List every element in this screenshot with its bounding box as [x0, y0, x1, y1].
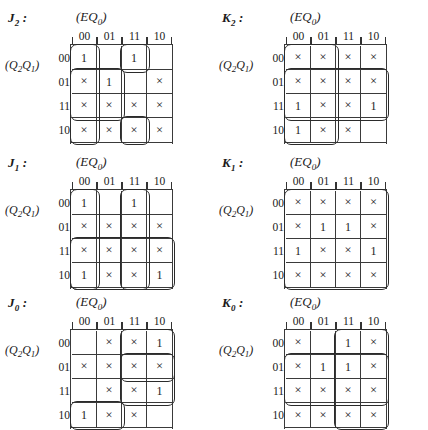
kmap-cell: 1: [147, 379, 172, 403]
kmap-cell: ×: [311, 403, 336, 427]
kmap-grid-j1: 11××××××××1××1: [72, 191, 172, 287]
kmap-cell: ×: [361, 379, 386, 403]
row-value: 00: [50, 191, 70, 215]
kmap-title-j0: J0 :: [8, 295, 27, 313]
kmap-cell: ×: [361, 331, 386, 355]
column-header-label-k2: (EQ0): [290, 9, 321, 27]
column-value: 01: [311, 29, 336, 44]
kmap-cell: ×: [336, 191, 361, 215]
kmap-cell: ×: [336, 403, 361, 427]
kmap-cell: ×: [122, 403, 147, 427]
grid-bottom-border: [285, 142, 386, 143]
column-value: 01: [97, 29, 122, 44]
row-value: 10: [50, 118, 70, 142]
kmap-cell: ×: [311, 239, 336, 263]
kmap-cell: ×: [122, 118, 147, 142]
kmap-cell: ×: [361, 355, 386, 379]
kmap-title-k0: K0 :: [222, 295, 244, 313]
column-value: 01: [97, 174, 122, 189]
kmap-cell: [147, 403, 172, 427]
kmap-cell: ×: [97, 355, 122, 379]
row-value: 10: [50, 263, 70, 287]
row-value: 00: [50, 46, 70, 70]
kmap-cell: ×: [286, 331, 311, 355]
kmap-cell: ×: [361, 215, 386, 239]
row-value: 10: [264, 263, 284, 287]
kmap-j0: J0 :(EQ0)(Q2Q1)0001111000011110××1××××××…: [0, 285, 200, 425]
kmap-cell: 1: [336, 331, 361, 355]
row-values-k0: 00011110: [264, 331, 284, 427]
kmap-cell: 1: [286, 239, 311, 263]
row-header-label-j0: (Q2Q1): [5, 343, 39, 359]
kmap-cell: ×: [286, 263, 311, 287]
column-value: 00: [286, 174, 311, 189]
row-value: 11: [264, 94, 284, 118]
column-value: 10: [147, 314, 172, 329]
column-value: 10: [361, 314, 386, 329]
kmap-j2: J2 :(EQ0)(Q2Q1)000111100001111011×1×××××…: [0, 0, 200, 140]
kmap-cell: ×: [361, 70, 386, 94]
kmap-cell: ×: [361, 191, 386, 215]
kmap-cell: [361, 118, 386, 142]
kmap-cell: ×: [286, 191, 311, 215]
kmap-cell: ×: [122, 331, 147, 355]
row-header-label-j2: (Q2Q1): [5, 58, 39, 74]
kmap-cell: [97, 46, 122, 70]
kmap-k1: K1 :(EQ0)(Q2Q1)0001111000011110×××××11×1…: [214, 145, 414, 285]
kmap-cell: [97, 191, 122, 215]
column-value: 00: [286, 29, 311, 44]
kmap-cell: 1: [361, 239, 386, 263]
grid-bottom-border: [285, 427, 386, 428]
column-value: 01: [311, 174, 336, 189]
kmap-cell: ×: [361, 46, 386, 70]
grid-right-border: [172, 44, 173, 144]
kmap-cell: ×: [147, 355, 172, 379]
kmap-cell: ×: [147, 239, 172, 263]
kmap-cell: ×: [97, 263, 122, 287]
row-value: 10: [264, 118, 284, 142]
grid-bottom-border: [71, 142, 172, 143]
kmap-cell: 1: [147, 263, 172, 287]
kmap-title-k2: K2 :: [222, 10, 244, 28]
kmap-cell: ×: [336, 118, 361, 142]
kmap-grid-k0: ×1××11×××××××××: [286, 331, 386, 427]
kmap-cell: ×: [311, 379, 336, 403]
kmap-cell: 1: [361, 94, 386, 118]
kmap-cell: [311, 331, 336, 355]
kmap-cell: ×: [336, 94, 361, 118]
row-value: 01: [50, 70, 70, 94]
kmap-cell: ×: [311, 191, 336, 215]
row-value: 11: [50, 94, 70, 118]
kmap-cell: ×: [147, 94, 172, 118]
row-value: 01: [264, 355, 284, 379]
column-value: 10: [361, 174, 386, 189]
kmap-cell: ×: [122, 379, 147, 403]
row-header-label-j1: (Q2Q1): [5, 203, 39, 219]
kmap-cell: 1: [147, 331, 172, 355]
kmap-cell: ×: [361, 403, 386, 427]
column-header-label-j2: (EQ0): [76, 9, 107, 27]
column-value: 00: [72, 174, 97, 189]
kmap-cell: ×: [286, 403, 311, 427]
kmap-k0: K0 :(EQ0)(Q2Q1)0001111000011110×1××11×××…: [214, 285, 414, 425]
kmap-cell: ×: [72, 94, 97, 118]
column-value: 00: [72, 314, 97, 329]
row-values-k2: 00011110: [264, 46, 284, 142]
row-value: 01: [50, 215, 70, 239]
kmap-cell: [72, 331, 97, 355]
kmap-cell: ×: [97, 239, 122, 263]
kmap-cell: 1: [122, 46, 147, 70]
column-value: 11: [122, 314, 147, 329]
kmap-cell: 1: [97, 70, 122, 94]
kmap-cell: ×: [72, 355, 97, 379]
kmap-cell: [147, 46, 172, 70]
column-value: 01: [311, 314, 336, 329]
kmap-cell: ×: [286, 70, 311, 94]
kmap-cell: 1: [336, 215, 361, 239]
kmap-cell: [122, 70, 147, 94]
row-value: 00: [264, 46, 284, 70]
kmap-title-j1: J1 :: [8, 155, 27, 173]
kmap-cell: ×: [122, 355, 147, 379]
kmap-cell: 1: [72, 191, 97, 215]
column-value: 11: [336, 174, 361, 189]
